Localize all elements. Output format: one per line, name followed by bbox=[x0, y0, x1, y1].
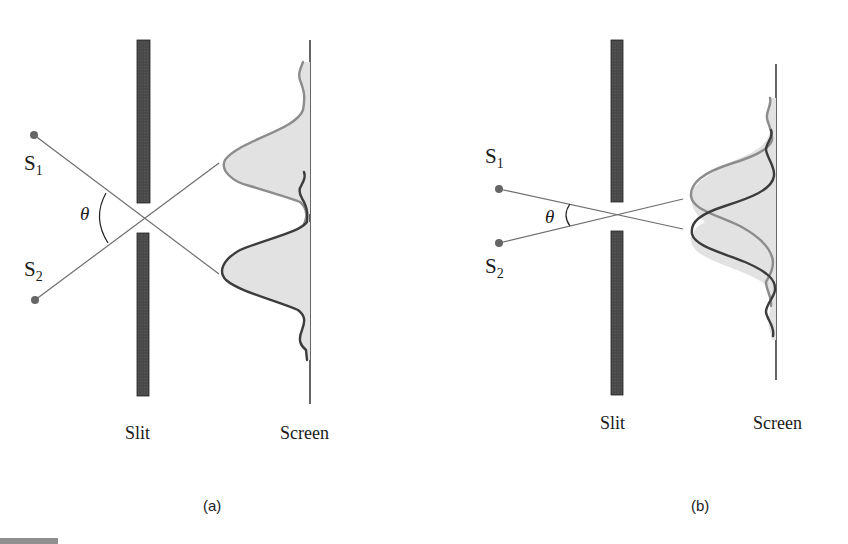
angle-label: θ bbox=[80, 203, 89, 224]
angle-label: θ bbox=[545, 206, 554, 227]
screen-label: Screen bbox=[753, 413, 802, 433]
source-s2-label: S2 bbox=[24, 257, 43, 284]
ray-s1 bbox=[34, 135, 219, 274]
clipped-caption-fragment bbox=[0, 538, 58, 544]
slit-upper-bar bbox=[611, 40, 623, 202]
source-s1-dot bbox=[30, 131, 38, 139]
slit-lower-bar bbox=[137, 233, 149, 396]
panel-caption-b: (b) bbox=[691, 497, 709, 514]
source-s2-label: S2 bbox=[485, 254, 504, 281]
ray-s1 bbox=[499, 189, 683, 229]
source-s1-label: S1 bbox=[24, 151, 43, 178]
slit-label: Slit bbox=[125, 423, 150, 443]
slit-lower-bar bbox=[611, 231, 623, 395]
slit-upper-bar bbox=[137, 40, 150, 203]
s2-intensity-fill bbox=[222, 222, 310, 360]
panel-b: S1 S2 θ Slit Screen (b) bbox=[485, 40, 802, 514]
source-s2-dot bbox=[495, 239, 503, 247]
combined-intensity-fill bbox=[691, 98, 776, 340]
source-s1-label: S1 bbox=[485, 144, 504, 171]
slit-label: Slit bbox=[600, 413, 625, 433]
angle-arc bbox=[566, 204, 570, 226]
source-s2-dot bbox=[31, 296, 39, 304]
ray-s2 bbox=[499, 199, 683, 243]
screen-label: Screen bbox=[280, 423, 329, 443]
ray-s2 bbox=[35, 163, 219, 300]
panel-caption-a: (a) bbox=[203, 497, 221, 514]
diffraction-figure: S1 S2 θ Slit Screen (a) S1 S2 θ Slit Scr… bbox=[0, 0, 848, 544]
angle-arc bbox=[99, 193, 108, 243]
source-s1-dot bbox=[495, 185, 503, 193]
panel-a: S1 S2 θ Slit Screen (a) bbox=[24, 40, 329, 514]
